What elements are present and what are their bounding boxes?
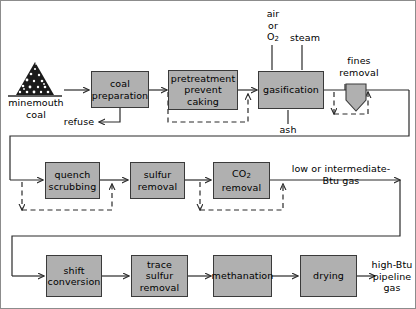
co2-text: CO [232,168,246,179]
box-quench-scrubbing[interactable]: quench scrubbing [45,162,100,199]
box-trace-sulfur-removal[interactable]: trace sulfur removal [131,255,188,297]
coal-pile-icon [16,62,54,95]
steam-label: steam [285,32,325,44]
removal-text: removal [222,182,261,193]
box-sulfur-removal[interactable]: sulfur removal [130,162,185,199]
box-gasification[interactable]: gasification [258,71,324,109]
box-coal-preparation[interactable]: coal preparation [91,71,149,108]
high-btu-pipeline-gas-label: high-Btu pipeline gas [369,259,415,294]
ash-label: ash [270,124,306,136]
co2-subscript: 2 [246,172,251,180]
box-methanation[interactable]: methanation [213,255,272,297]
box-co2-removal[interactable]: CO2 removal [213,162,270,199]
refuse-label: refuse [60,116,98,128]
box-drying[interactable]: drying [300,255,357,297]
fines-removal-vessel [346,84,366,111]
flowchart-canvas: minemouth coal coal preparation pretreat… [0,0,416,309]
o2-subscript: 2 [275,35,280,43]
box-pretreatment-prevent-caking[interactable]: pretreatment prevent caking [168,70,238,110]
low-intermediate-btu-gas-label: low or intermediate- Btu gas [288,163,394,186]
fines-removal-label: fines removal [330,55,388,78]
box-shift-conversion[interactable]: shift conversion [46,255,102,297]
co2-removal-label: CO2 removal [214,168,269,194]
